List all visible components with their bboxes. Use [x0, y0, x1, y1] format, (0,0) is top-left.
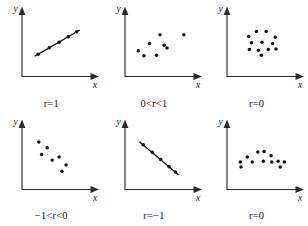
axes-2: y x — [218, 4, 304, 90]
data-point — [265, 30, 268, 33]
data-point — [274, 35, 277, 38]
x-axis-arrowhead-2 — [296, 73, 304, 80]
series-3 — [37, 140, 68, 173]
axis-lines-3 — [22, 127, 92, 189]
data-point — [248, 48, 251, 51]
data-point — [267, 48, 270, 51]
data-point — [247, 35, 250, 38]
data-point — [261, 40, 264, 43]
data-point — [50, 158, 53, 161]
data-point — [154, 53, 157, 56]
panel-caption-4: r=−1 — [103, 210, 206, 221]
x-axis-arrowhead-0 — [90, 73, 98, 80]
panel-r-equals-0-arch: y x r=0 — [205, 113, 308, 226]
data-point — [159, 157, 162, 160]
panel-r-between-0-and-1: y x 0<r<1 — [103, 0, 206, 113]
panel-caption-2: r=0 — [205, 98, 308, 109]
data-point — [142, 54, 145, 57]
data-point — [64, 163, 67, 166]
y-axis-arrowhead-2 — [224, 7, 231, 15]
x-axis-arrowhead-1 — [193, 73, 201, 80]
data-point — [255, 30, 258, 33]
x-axis-label-1: x — [195, 80, 201, 90]
data-point — [167, 164, 170, 167]
series-5 — [239, 149, 287, 168]
y-axis-arrowhead-4 — [121, 119, 128, 127]
data-point — [158, 33, 161, 36]
x-axis-label-4: x — [195, 192, 201, 202]
y-axis-arrowhead-0 — [19, 7, 26, 15]
data-point — [162, 44, 165, 47]
data-point — [246, 155, 249, 158]
data-point — [262, 159, 265, 162]
data-point — [251, 160, 254, 163]
data-point — [250, 41, 253, 44]
trend-line — [139, 142, 177, 174]
data-point — [275, 47, 278, 50]
plot-area-0: y x — [0, 0, 103, 92]
axes-3: y x — [12, 117, 98, 203]
y-axis-arrowhead-3 — [19, 119, 26, 127]
correlation-scatterplot-figure: y x r=1 y x 0<r<1 y x — [0, 0, 308, 225]
data-point — [40, 152, 43, 155]
axes-0: y x — [12, 4, 98, 90]
x-axis-label-0: x — [92, 80, 98, 90]
panel-caption-3: −1<r<0 — [0, 210, 103, 221]
data-point — [136, 49, 139, 52]
data-point — [263, 149, 266, 152]
data-point — [57, 40, 60, 43]
panel-caption-1: 0<r<1 — [103, 98, 206, 109]
data-point — [48, 46, 51, 49]
data-point — [60, 169, 63, 172]
y-axis-label-1: y — [115, 4, 121, 14]
axes-4: y x — [115, 117, 201, 203]
axis-lines-0 — [22, 14, 92, 76]
x-axis-label-3: x — [92, 192, 98, 202]
plot-area-2: y x — [205, 0, 308, 92]
panel-r-equals-0-circular: y x r=0 — [205, 0, 308, 113]
axes-5: y x — [218, 117, 304, 203]
trend-line — [35, 30, 79, 56]
series-1 — [136, 33, 185, 58]
data-point — [75, 30, 78, 33]
data-point — [239, 160, 242, 163]
data-point — [283, 160, 286, 163]
data-point — [45, 145, 48, 148]
y-axis-arrowhead-1 — [121, 7, 128, 15]
x-axis-arrowhead-3 — [90, 186, 98, 193]
plot-area-3: y x — [0, 113, 103, 205]
y-axis-arrowhead-5 — [224, 119, 231, 127]
y-axis-label-0: y — [12, 4, 18, 14]
series-2 — [247, 30, 278, 57]
axes-1: y x — [115, 4, 201, 90]
data-point — [270, 154, 273, 157]
y-axis-label-5: y — [218, 117, 224, 127]
data-point — [57, 155, 60, 158]
data-point — [37, 140, 40, 143]
data-point — [150, 150, 153, 153]
panel-r-equals-minus1: y x r=−1 — [103, 113, 206, 226]
axis-lines-1 — [125, 14, 195, 76]
plot-area-1: y x — [103, 0, 206, 92]
data-point — [240, 165, 243, 168]
data-point — [147, 42, 150, 45]
data-point — [257, 48, 260, 51]
data-point — [165, 46, 168, 49]
data-point — [66, 35, 69, 38]
panel-r-equals-1: y x r=1 — [0, 0, 103, 113]
x-axis-label-2: x — [297, 80, 303, 90]
data-point — [141, 143, 144, 146]
plot-area-5: y x — [205, 113, 308, 205]
panel-caption-0: r=1 — [0, 98, 103, 109]
plot-area-4: y x — [103, 113, 206, 205]
y-axis-label-4: y — [115, 117, 121, 127]
data-point — [173, 170, 176, 173]
data-point — [182, 33, 185, 36]
series-0 — [35, 30, 79, 56]
data-point — [256, 150, 259, 153]
data-point — [260, 53, 263, 56]
data-point — [277, 159, 280, 162]
panel-r-between-minus1-and-0: y x −1<r<0 — [0, 113, 103, 226]
data-point — [36, 53, 39, 56]
y-axis-label-3: y — [12, 117, 18, 127]
